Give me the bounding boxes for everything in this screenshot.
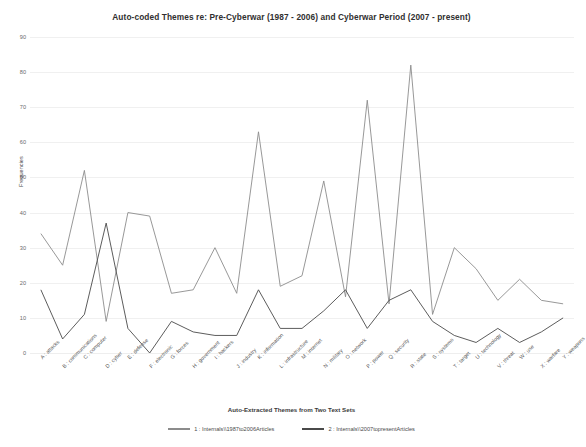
y-tick-label-60: 60 xyxy=(8,139,26,145)
x-axis-title: Auto-Extracted Themes from Two Text Sets xyxy=(0,406,583,413)
legend-item-1[interactable]: 1 : Internals\\1987to2006Articles xyxy=(168,426,274,432)
legend-label-1: 1 : Internals\\1987to2006Articles xyxy=(194,426,274,432)
legend-swatch-2 xyxy=(302,428,324,429)
legend-item-2[interactable]: 2 : Internals\\2007topresentArticles xyxy=(302,426,414,432)
y-tick-label-0: 0 xyxy=(8,350,26,356)
y-tick-label-20: 20 xyxy=(8,280,26,286)
y-tick-label-80: 80 xyxy=(8,69,26,75)
series-line-2 xyxy=(41,223,563,353)
series-lines xyxy=(30,37,574,353)
x-axis-labels: A : attacksB : communicationsC : compute… xyxy=(30,356,574,404)
chart-title: Auto-coded Themes re: Pre-Cyberwar (1987… xyxy=(0,12,583,22)
y-tick-label-10: 10 xyxy=(8,315,26,321)
legend-swatch-1 xyxy=(168,428,190,429)
legend-label-2: 2 : Internals\\2007topresentArticles xyxy=(328,426,414,432)
y-tick-label-70: 70 xyxy=(8,104,26,110)
y-axis-title: Frequencies xyxy=(18,156,24,187)
y-tick-label-40: 40 xyxy=(8,210,26,216)
chart-legend: 1 : Internals\\1987to2006Articles2 : Int… xyxy=(0,426,583,432)
plot-area: 0102030405060708090 Frequencies xyxy=(30,37,574,353)
series-line-1 xyxy=(41,65,563,321)
y-tick-label-90: 90 xyxy=(8,34,26,40)
y-tick-label-30: 30 xyxy=(8,245,26,251)
